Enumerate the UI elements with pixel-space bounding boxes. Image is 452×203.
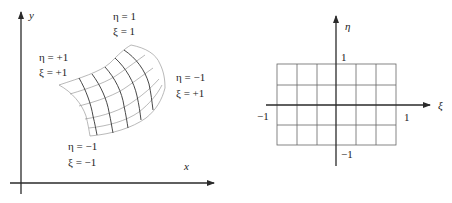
- reference-domain: η ξ 1 −1 −1 1: [257, 16, 443, 166]
- tick-eta-max: 1: [341, 51, 347, 63]
- svg-text:ξ = −1: ξ = −1: [68, 156, 96, 169]
- svg-text:η = −1: η = −1: [68, 140, 97, 152]
- corner-label-right: η = −1 ξ = +1: [176, 71, 205, 100]
- eta-axis-label: η: [345, 20, 350, 32]
- physical-domain: y x η = 1 ξ = 1 η = +1: [10, 9, 214, 194]
- svg-text:η = +1: η = +1: [39, 51, 68, 63]
- xi-axis-label: ξ: [438, 99, 443, 112]
- svg-text:ξ = 1: ξ = 1: [113, 25, 135, 38]
- x-axis-label: x: [183, 160, 189, 172]
- svg-text:η = −1: η = −1: [176, 71, 205, 83]
- tick-xi-min: −1: [257, 110, 269, 122]
- svg-text:η = 1: η = 1: [113, 10, 136, 22]
- corner-label-top: η = 1 ξ = 1: [113, 10, 136, 38]
- corner-label-left: η = +1 ξ = +1: [39, 51, 68, 79]
- svg-text:ξ = +1: ξ = +1: [39, 66, 67, 79]
- curved-element-mesh: [59, 45, 165, 136]
- corner-label-bottom: η = −1 ξ = −1: [68, 140, 97, 169]
- mesh-bottom-edge: [90, 88, 165, 136]
- mapping-diagram: y x η = 1 ξ = 1 η = +1: [0, 0, 452, 203]
- tick-eta-min: −1: [341, 148, 353, 160]
- y-axis-label: y: [28, 9, 34, 21]
- svg-text:ξ = +1: ξ = +1: [176, 87, 204, 100]
- tick-xi-max: 1: [404, 111, 410, 123]
